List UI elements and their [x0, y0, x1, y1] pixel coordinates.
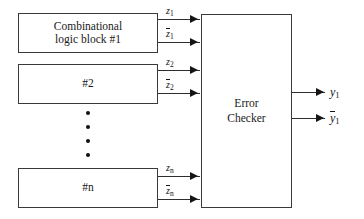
signal-y1-sub: 1	[335, 90, 339, 100]
error-checker-label-line1: Error	[234, 97, 258, 109]
signal-z2-bar-base: z	[166, 80, 170, 90]
signal-z2-sub: 2	[170, 60, 174, 69]
combinational-logic-block-1: Combinational logic block #1	[18, 13, 158, 53]
arrow-y1-icon	[316, 88, 324, 96]
block-n-label: #n	[82, 181, 94, 195]
arrow-z1-bar-icon	[190, 38, 198, 46]
vertical-ellipsis	[83, 111, 95, 159]
signal-zn-bar-base: z	[166, 186, 170, 196]
signal-label-z1: z1	[166, 6, 174, 19]
signal-z2-bar-sub: 2	[170, 83, 174, 92]
signal-y1-bar-base: y	[330, 112, 335, 124]
arrow-zn-icon	[190, 172, 198, 180]
signal-label-y1: y1	[330, 86, 340, 101]
signal-label-z2-bar: z2	[166, 80, 174, 93]
ellipsis-dot	[86, 125, 90, 129]
ellipsis-dot	[86, 139, 90, 143]
signal-label-zn-bar: zn	[166, 186, 174, 199]
block-1-label-line1: Combinational	[54, 20, 122, 32]
error-checker-label: Error Checker	[227, 96, 265, 126]
signal-label-z2: z2	[166, 57, 174, 70]
ellipsis-dot	[86, 153, 90, 157]
block-1-label: Combinational logic block #1	[54, 20, 122, 47]
error-checker-label-line2: Checker	[227, 112, 265, 124]
block-1-label-line2: logic block #1	[55, 33, 121, 45]
signal-label-zn: zn	[166, 163, 174, 176]
signal-y1-bar-sub: 1	[335, 116, 339, 126]
signal-label-y1-bar: y1	[330, 112, 340, 127]
signal-zn-bar-sub: n	[170, 189, 174, 198]
error-checker-block: Error Checker	[201, 14, 292, 208]
signal-z1-sub: 1	[170, 9, 174, 18]
error-checker-block-diagram: Combinational logic block #1 #2 #n Error…	[0, 0, 364, 219]
signal-label-z1-bar: z1	[166, 29, 174, 42]
signal-z1-bar-sub: 1	[170, 32, 174, 41]
arrow-y1-bar-icon	[316, 114, 324, 122]
arrow-zn-bar-icon	[190, 195, 198, 203]
block-2-label: #2	[82, 77, 94, 91]
signal-zn-sub: n	[170, 166, 174, 175]
arrow-z1-icon	[190, 15, 198, 23]
signal-z1-bar-base: z	[166, 29, 170, 39]
arrow-z2-bar-icon	[190, 89, 198, 97]
combinational-logic-block-n: #n	[18, 168, 158, 208]
arrow-z2-icon	[190, 66, 198, 74]
combinational-logic-block-2: #2	[18, 64, 158, 104]
ellipsis-dot	[86, 111, 90, 115]
